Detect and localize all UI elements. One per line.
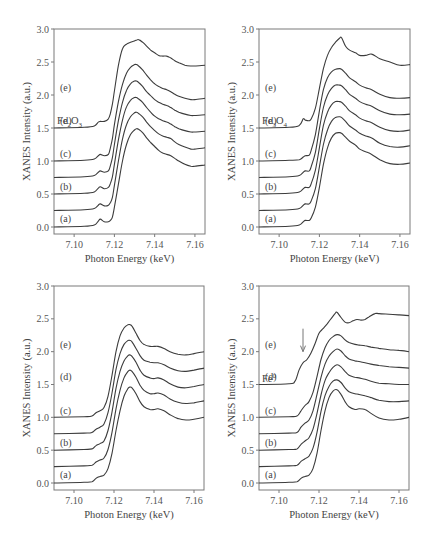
curve-label: (d) bbox=[60, 371, 72, 383]
y-tick-label: 1.5 bbox=[242, 123, 255, 134]
spectrum-curve-b bbox=[54, 112, 205, 210]
x-axis-label: Photon Energy (keV) bbox=[290, 253, 380, 265]
plot-frame bbox=[54, 29, 205, 234]
curve-label: (c) bbox=[265, 148, 276, 160]
curve-label: (a) bbox=[60, 469, 71, 481]
y-tick-label: 2.5 bbox=[242, 313, 255, 324]
panel-bottom-left: 0.00.51.01.52.02.53.07.107.127.147.16Pho… bbox=[21, 281, 204, 522]
y-tick-label: 0.0 bbox=[242, 222, 255, 233]
x-axis-label: Photon Energy (keV) bbox=[85, 253, 175, 265]
x-tick-label: 7.12 bbox=[311, 239, 329, 250]
y-tick-label: 0.5 bbox=[242, 445, 255, 456]
x-tick-label: 7.14 bbox=[146, 239, 164, 250]
curve-label: (c) bbox=[265, 405, 276, 417]
panel-fe0: 0.00.51.01.52.02.53.07.107.127.147.16Pho… bbox=[226, 281, 409, 522]
x-tick-label: 7.16 bbox=[390, 495, 408, 506]
y-tick-label: 2.0 bbox=[242, 346, 255, 357]
y-tick-label: 1.5 bbox=[37, 123, 50, 134]
curve-label: (a) bbox=[265, 469, 276, 481]
y-tick-label: 2.0 bbox=[37, 90, 50, 101]
xanes-figure: 0.00.51.01.52.02.53.07.107.127.147.16Pho… bbox=[0, 0, 432, 541]
arrow-down-icon bbox=[301, 329, 306, 352]
y-tick-label: 1.0 bbox=[37, 156, 50, 167]
y-tick-label: 1.5 bbox=[242, 379, 255, 390]
x-tick-label: 7.12 bbox=[106, 239, 124, 250]
y-tick-label: 3.0 bbox=[242, 281, 255, 292]
spectrum-curve-a bbox=[259, 133, 410, 227]
x-axis-label: Photon Energy (keV) bbox=[289, 509, 379, 521]
panel-fe3o4: 0.00.51.01.52.02.53.07.107.127.147.16Pho… bbox=[226, 24, 410, 266]
y-tick-label: 2.0 bbox=[37, 346, 50, 357]
x-tick-label: 7.14 bbox=[351, 239, 369, 250]
y-axis-label: XANES Intensity (a.u.) bbox=[226, 338, 238, 438]
y-tick-label: 0.0 bbox=[242, 478, 255, 489]
curve-label: (e) bbox=[265, 82, 276, 94]
x-tick-label: 7.16 bbox=[185, 495, 203, 506]
y-axis-label: XANES Intensity (a.u.) bbox=[226, 81, 238, 181]
spectrum-curve-a bbox=[259, 390, 409, 483]
spectrum-curve-Fe0 bbox=[259, 312, 409, 384]
curve-label: (e) bbox=[265, 339, 276, 351]
spectrum-curve-b bbox=[259, 117, 410, 211]
y-tick-label: 2.5 bbox=[37, 57, 50, 68]
x-tick-label: 7.10 bbox=[270, 495, 288, 506]
curve-label: (b) bbox=[60, 181, 72, 193]
spectrum-curve-e bbox=[259, 335, 409, 418]
curve-label: (b) bbox=[265, 181, 277, 193]
x-tick-label: 7.16 bbox=[391, 239, 409, 250]
y-tick-label: 0.5 bbox=[37, 445, 50, 456]
spectrum-curve-c bbox=[259, 365, 409, 450]
x-tick-label: 7.16 bbox=[186, 239, 204, 250]
x-tick-label: 7.14 bbox=[145, 495, 163, 506]
y-tick-label: 1.0 bbox=[242, 412, 255, 423]
curve-label: (e) bbox=[60, 339, 71, 351]
panel-fe2o3: 0.00.51.01.52.02.53.07.107.127.147.16Pho… bbox=[21, 24, 205, 266]
y-tick-label: 1.5 bbox=[37, 379, 50, 390]
y-tick-label: 2.5 bbox=[37, 313, 50, 324]
x-tick-label: 7.10 bbox=[65, 239, 83, 250]
y-tick-label: 3.0 bbox=[37, 24, 50, 35]
spectrum-curve-a bbox=[54, 387, 204, 483]
curve-label: (a) bbox=[265, 213, 276, 225]
x-tick-label: 7.14 bbox=[350, 495, 368, 506]
curve-label: (e) bbox=[60, 82, 71, 94]
spectrum-curve-a bbox=[54, 129, 205, 227]
y-tick-label: 3.0 bbox=[242, 24, 255, 35]
curve-label: (a) bbox=[60, 213, 71, 225]
y-tick-label: 3.0 bbox=[37, 281, 50, 292]
y-axis-label: XANES Intensity (a.u.) bbox=[21, 338, 33, 438]
x-tick-label: 7.10 bbox=[65, 495, 83, 506]
y-tick-label: 0.5 bbox=[37, 189, 50, 200]
y-tick-label: 2.0 bbox=[242, 90, 255, 101]
curve-label: (b) bbox=[60, 437, 72, 449]
curve-label: (c) bbox=[60, 405, 71, 417]
y-tick-label: 0.5 bbox=[242, 189, 255, 200]
y-tick-label: 1.0 bbox=[242, 156, 255, 167]
y-axis-label: XANES Intensity (a.u.) bbox=[21, 81, 33, 181]
plot-frame bbox=[259, 286, 409, 490]
x-axis-label: Photon Energy (keV) bbox=[84, 509, 174, 521]
spectrum-curve-b bbox=[54, 370, 204, 467]
spectrum-curve-d bbox=[259, 349, 409, 434]
curve-label: (c) bbox=[60, 148, 71, 160]
x-tick-label: 7.12 bbox=[310, 495, 328, 506]
y-tick-label: 1.0 bbox=[37, 412, 50, 423]
spectrum-curve-b bbox=[259, 380, 409, 467]
y-tick-label: 0.0 bbox=[37, 222, 50, 233]
spectrum-curve-d bbox=[259, 85, 410, 178]
y-tick-label: 0.0 bbox=[37, 478, 50, 489]
x-tick-label: 7.12 bbox=[105, 495, 123, 506]
y-tick-label: 2.5 bbox=[242, 57, 255, 68]
plot-frame bbox=[259, 29, 410, 234]
curve-label: (b) bbox=[265, 437, 277, 449]
x-tick-label: 7.10 bbox=[270, 239, 288, 250]
